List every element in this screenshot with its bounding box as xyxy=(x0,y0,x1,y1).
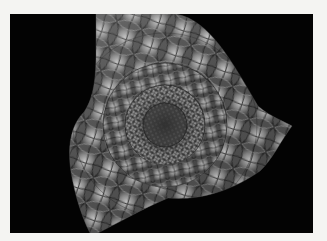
trefoil-shape xyxy=(10,14,313,233)
fractal-trefoil xyxy=(10,14,313,233)
image-border xyxy=(0,0,327,241)
sheen-overlay xyxy=(10,14,313,233)
black-panel xyxy=(10,14,313,233)
